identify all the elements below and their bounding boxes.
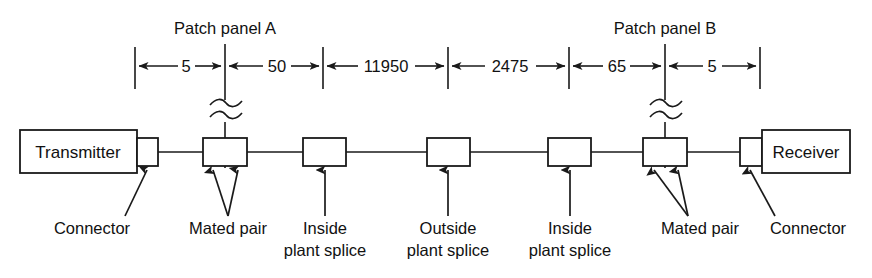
inside-plant-splice-box-right[interactable]: [548, 138, 591, 166]
callout-inside-plant-splice-right-line1: Inside: [548, 219, 592, 237]
dimension-label-50: 50: [268, 57, 286, 75]
callout-mated-pair-left: Mated pair: [189, 219, 267, 237]
connector-box-left[interactable]: [137, 138, 158, 166]
mated-pair-right[interactable]: [643, 138, 687, 166]
dimension-label-5-left: 5: [181, 57, 190, 75]
callout-inside-plant-splice-left-line1: Inside: [303, 219, 347, 237]
mated-pair-box-right[interactable]: [643, 138, 687, 166]
connector-box-right[interactable]: [740, 138, 762, 166]
callout-outside-plant-splice-line2: plant splice: [407, 241, 490, 259]
callout-inside-plant-splice-left-line2: plant splice: [284, 241, 367, 259]
mated-pair-box-left[interactable]: [203, 138, 247, 166]
mated-pair-left[interactable]: [203, 138, 247, 166]
receiver[interactable]: Receiver: [762, 130, 850, 173]
callout-connector-left: Connector: [54, 219, 131, 237]
dimension-label-11950: 11950: [364, 57, 409, 75]
callout-inside-plant-splice-right-line2: plant splice: [529, 241, 612, 259]
callout-mated-pair-right: Mated pair: [661, 219, 739, 237]
diagram-canvas: Patch panel A Patch panel B: [0, 0, 872, 278]
dimension-label-5-right: 5: [707, 57, 716, 75]
callout-outside-plant-splice-line1: Outside: [420, 219, 477, 237]
transmitter-label: Transmitter: [35, 143, 121, 162]
transmitter[interactable]: Transmitter: [20, 130, 137, 173]
fiber-link-budget-diagram: Patch panel A Patch panel B: [0, 0, 872, 278]
patch-panel-b-title: Patch panel B: [614, 19, 717, 37]
dimension-label-2475: 2475: [492, 57, 529, 75]
dimension-label-65: 65: [608, 57, 626, 75]
receiver-label: Receiver: [772, 143, 839, 162]
patch-panel-a-title: Patch panel A: [174, 19, 276, 37]
outside-plant-splice-box[interactable]: [427, 138, 470, 166]
inside-plant-splice-box-left[interactable]: [303, 138, 346, 166]
callout-connector-right: Connector: [770, 219, 847, 237]
